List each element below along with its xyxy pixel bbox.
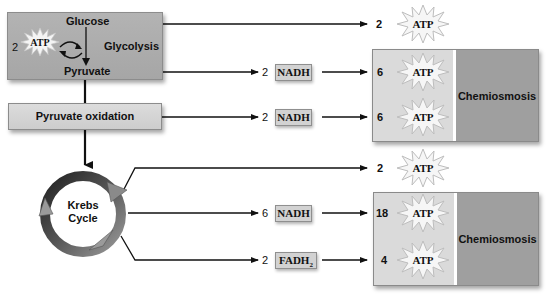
- nadh-box: NADH: [275, 205, 312, 222]
- atp-burst-icon: ATP: [396, 193, 450, 233]
- atp-count: 2: [377, 162, 383, 174]
- glycolysis-label: Glycolysis: [104, 40, 159, 52]
- pyruvate-oxidation-label: Pyruvate oxidation: [9, 110, 161, 122]
- nadh-count: 2: [262, 111, 268, 123]
- chemiosmosis-label: Chemiosmosis: [457, 233, 538, 245]
- atp-burst-icon: ATP: [396, 4, 450, 44]
- nadh-count: 2: [262, 66, 268, 78]
- fadh2-box: FADH2: [275, 252, 317, 269]
- fadh2-count: 2: [262, 254, 268, 266]
- atp-count: 2: [376, 18, 382, 30]
- atp-burst-icon: ATP: [396, 148, 450, 188]
- krebs-cycle-label: Krebs Cycle: [52, 199, 114, 225]
- nadh-box: NADH: [275, 109, 312, 126]
- invested-atp-count: 2: [12, 41, 18, 53]
- nadh-box: NADH: [275, 64, 312, 81]
- atp-burst-icon: ATP: [396, 52, 450, 92]
- glucose-label: Glucose: [66, 15, 109, 27]
- atp-cycle-icon: [56, 39, 86, 61]
- atp-count: 4: [381, 254, 387, 266]
- chemiosmosis-label: Chemiosmosis: [456, 90, 538, 102]
- glycolysis-box: Glucose Pyruvate Glycolysis 2 ATP: [7, 12, 163, 80]
- atp-count: 6: [377, 111, 383, 123]
- pyruvate-oxidation-box: Pyruvate oxidation: [8, 103, 162, 130]
- atp-burst-icon: ATP: [20, 27, 60, 57]
- nadh-count: 6: [262, 207, 268, 219]
- atp-count: 6: [377, 66, 383, 78]
- atp-count: 18: [376, 207, 388, 219]
- atp-burst-icon: ATP: [396, 97, 450, 137]
- atp-burst-icon: ATP: [396, 240, 450, 280]
